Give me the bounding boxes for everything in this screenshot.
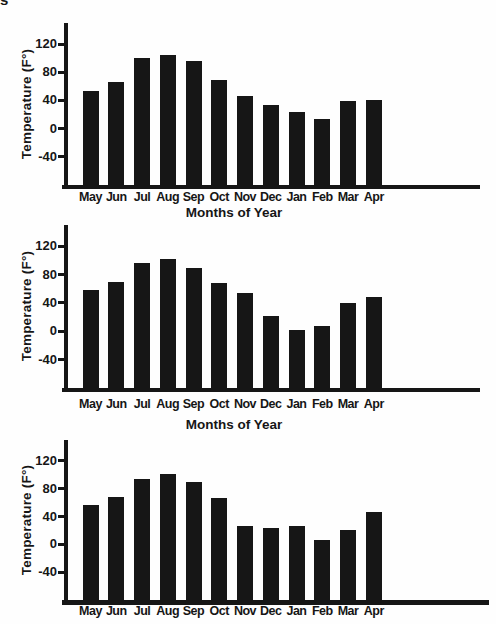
x-tick-label: Mar bbox=[332, 190, 364, 204]
x-tick-label: May bbox=[75, 190, 107, 204]
bar-sep bbox=[186, 61, 202, 185]
y-axis-line bbox=[64, 23, 68, 189]
x-tick-label: Feb bbox=[306, 604, 338, 618]
bar-feb bbox=[314, 119, 330, 185]
x-tick-label: Mar bbox=[332, 397, 364, 411]
y-tick-mark bbox=[58, 487, 64, 490]
x-tick-label: Jan bbox=[281, 190, 313, 204]
y-tick-mark bbox=[58, 273, 64, 276]
x-axis-line bbox=[62, 185, 480, 189]
x-tick-label: Jan bbox=[281, 604, 313, 618]
x-tick-label: Oct bbox=[203, 397, 235, 411]
y-axis-title: Temperature (F°) bbox=[19, 49, 34, 159]
x-tick-label: Jun bbox=[100, 604, 132, 618]
y-axis-title: Temperature (F°) bbox=[19, 465, 34, 575]
y-tick-mark bbox=[58, 301, 64, 304]
x-tick-label: Nov bbox=[229, 397, 261, 411]
bar-feb bbox=[314, 540, 330, 600]
y-tick-label: 120 bbox=[27, 238, 57, 253]
bar-apr bbox=[366, 100, 382, 185]
y-tick-label: 120 bbox=[27, 36, 57, 51]
temperature-chart-bottom: Temperature (F°) 12080400-40MayJunJulAug… bbox=[0, 0, 496, 624]
x-tick-label: Feb bbox=[306, 397, 338, 411]
x-tick-label: Jun bbox=[100, 397, 132, 411]
y-tick-label: 80 bbox=[27, 481, 57, 496]
temperature-chart-middle: Temperature (F°) Months of Year 12080400… bbox=[0, 0, 496, 624]
y-tick-label: 80 bbox=[27, 267, 57, 282]
x-axis-title: Months of Year bbox=[114, 417, 354, 432]
bar-jul bbox=[134, 263, 150, 388]
bar-aug bbox=[160, 474, 176, 600]
bar-dec bbox=[263, 528, 279, 600]
y-tick-mark bbox=[58, 543, 64, 546]
page: s Temperature (F°) Months of Year 120804… bbox=[0, 0, 496, 624]
y-tick-mark bbox=[58, 155, 64, 158]
bar-jun bbox=[108, 282, 124, 388]
x-tick-label: Nov bbox=[229, 604, 261, 618]
x-tick-label: Jul bbox=[126, 604, 158, 618]
bar-jan bbox=[289, 526, 305, 600]
y-tick-mark bbox=[58, 43, 64, 46]
y-tick-mark bbox=[58, 245, 64, 248]
y-tick-mark bbox=[58, 71, 64, 74]
bar-jul bbox=[134, 58, 150, 185]
bar-oct bbox=[211, 498, 227, 600]
x-axis-line bbox=[62, 600, 489, 605]
y-tick-label: 0 bbox=[27, 323, 57, 338]
y-axis-title: Temperature (F°) bbox=[19, 251, 34, 361]
y-tick-mark bbox=[58, 459, 64, 462]
x-tick-label: Jan bbox=[281, 397, 313, 411]
x-tick-label: Apr bbox=[358, 397, 390, 411]
y-tick-label: -40 bbox=[27, 352, 57, 367]
bar-may bbox=[83, 290, 99, 388]
x-tick-label: Aug bbox=[152, 190, 184, 204]
y-tick-mark bbox=[58, 127, 64, 130]
x-tick-label: Sep bbox=[178, 604, 210, 618]
x-axis-line bbox=[62, 388, 480, 392]
x-tick-label: Sep bbox=[178, 397, 210, 411]
bar-aug bbox=[160, 55, 176, 185]
y-tick-mark bbox=[58, 515, 64, 518]
bar-dec bbox=[263, 105, 279, 185]
y-tick-mark bbox=[58, 330, 64, 333]
y-tick-mark bbox=[58, 99, 64, 102]
y-tick-label: 40 bbox=[27, 295, 57, 310]
bar-jun bbox=[108, 82, 124, 185]
bar-mar bbox=[340, 101, 356, 185]
bar-nov bbox=[237, 526, 253, 600]
bar-mar bbox=[340, 303, 356, 388]
x-tick-label: Oct bbox=[203, 190, 235, 204]
bar-oct bbox=[211, 283, 227, 388]
bar-apr bbox=[366, 297, 382, 388]
x-tick-label: Jul bbox=[126, 190, 158, 204]
y-tick-label: 40 bbox=[27, 509, 57, 524]
bar-nov bbox=[237, 96, 253, 185]
bar-jul bbox=[134, 479, 150, 600]
bar-jan bbox=[289, 112, 305, 185]
bar-dec bbox=[263, 316, 279, 388]
bar-jan bbox=[289, 330, 305, 388]
bar-sep bbox=[186, 268, 202, 388]
corner-text-fragment: s bbox=[0, 0, 8, 8]
bar-nov bbox=[237, 293, 253, 388]
bar-mar bbox=[340, 530, 356, 600]
x-tick-label: Apr bbox=[358, 190, 390, 204]
bar-may bbox=[83, 505, 99, 600]
y-tick-label: 80 bbox=[27, 64, 57, 79]
x-tick-label: Sep bbox=[178, 190, 210, 204]
y-tick-label: 40 bbox=[27, 92, 57, 107]
x-tick-label: Aug bbox=[152, 397, 184, 411]
bar-feb bbox=[314, 326, 330, 388]
y-tick-label: 0 bbox=[27, 536, 57, 551]
bar-aug bbox=[160, 259, 176, 388]
y-tick-label: 120 bbox=[27, 453, 57, 468]
bar-jun bbox=[108, 497, 124, 600]
y-tick-label: -40 bbox=[27, 149, 57, 164]
x-tick-label: Aug bbox=[152, 604, 184, 618]
x-tick-label: Dec bbox=[255, 397, 287, 411]
bar-apr bbox=[366, 512, 382, 600]
y-tick-mark bbox=[58, 571, 64, 574]
y-axis-line bbox=[64, 440, 68, 605]
x-axis-title: Months of Year bbox=[114, 205, 354, 220]
x-tick-label: May bbox=[75, 604, 107, 618]
